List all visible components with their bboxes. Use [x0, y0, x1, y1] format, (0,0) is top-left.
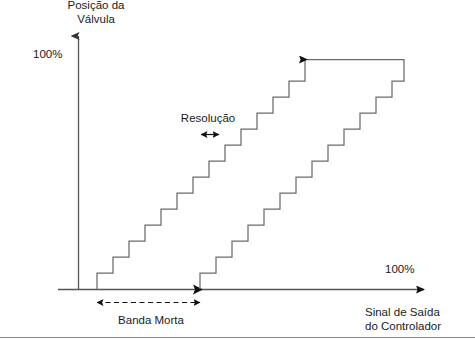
deadband-annotation-label: Banda Morta — [108, 314, 194, 327]
y-axis-title: Posição da Válvula — [36, 0, 156, 26]
decreasing-staircase-trace — [200, 59, 404, 289]
x-axis-max-tick-label: 100% — [385, 263, 414, 276]
y-axis-title-line2: Válvula — [36, 12, 156, 26]
y-axis-max-tick-label: 100% — [33, 48, 62, 61]
x-axis-title-line2: do Controlador — [365, 319, 475, 333]
resolution-annotation-label: Resolução — [170, 112, 246, 125]
staircase-plot — [0, 0, 475, 341]
y-axis-title-line1: Posição da — [36, 0, 156, 12]
valve-response-figure: Posição da Válvula 100% 100% Sinal de Sa… — [0, 0, 475, 341]
x-axis-title-line1: Sinal de Saída — [365, 305, 475, 319]
x-axis-title: Sinal de Saída do Controlador — [365, 305, 475, 333]
increasing-staircase-trace — [97, 59, 305, 289]
